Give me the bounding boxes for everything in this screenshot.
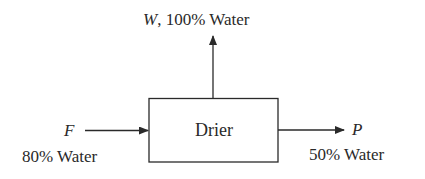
- water-stream-separator: ,: [157, 10, 166, 29]
- water-stream-symbol: W: [143, 10, 157, 29]
- product-stream-composition: 50% Water: [309, 146, 384, 163]
- feed-stream-composition: 80% Water: [22, 148, 97, 165]
- drier-unit-label: Drier: [149, 98, 279, 162]
- water-stream-label: W, 100% Water: [143, 11, 249, 28]
- water-stream-composition: 100% Water: [166, 10, 250, 29]
- feed-stream-symbol: F: [64, 122, 74, 139]
- product-stream-symbol: P: [352, 121, 362, 138]
